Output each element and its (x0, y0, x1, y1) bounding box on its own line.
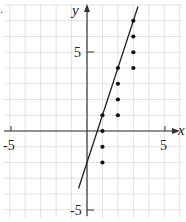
data-point (116, 113, 120, 117)
data-point (100, 160, 104, 164)
data-point (116, 66, 120, 70)
data-point (100, 113, 104, 117)
data-point (100, 145, 104, 149)
x-tick-label-neg5: -5 (3, 138, 15, 153)
x-axis-label: x (177, 122, 185, 138)
data-point (131, 34, 135, 38)
data-point (116, 82, 120, 86)
data-point (131, 50, 135, 54)
grid (4, 4, 182, 218)
data-point (100, 129, 104, 133)
data-point (131, 19, 135, 23)
x-tick-label-5: 5 (160, 138, 167, 153)
y-tick-label-5: 5 (74, 45, 81, 60)
data-point (131, 66, 135, 70)
data-point (116, 97, 120, 101)
y-tick-label-neg5: -5 (70, 203, 82, 218)
scatter-plot: x y -5 5 5 -5 (0, 0, 186, 222)
y-axis-label: y (70, 2, 79, 18)
